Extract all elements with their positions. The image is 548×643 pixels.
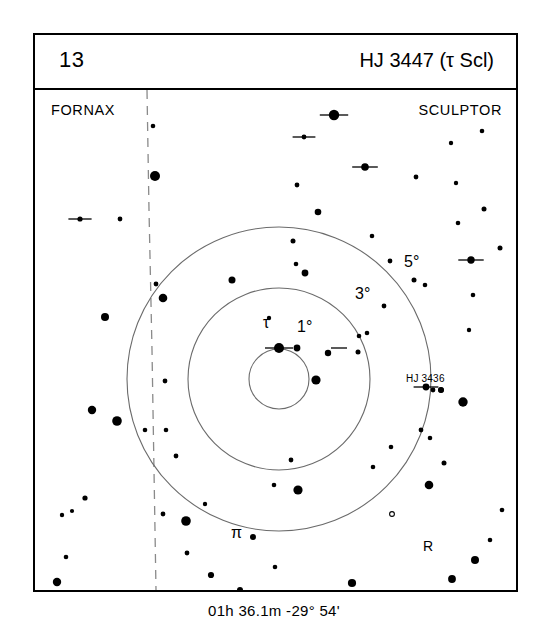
star-marker <box>419 428 424 433</box>
sky-plot <box>35 90 516 590</box>
ring-label-3deg: 3° <box>355 285 370 303</box>
star-marker <box>480 129 485 134</box>
star-marker <box>150 171 160 181</box>
star-marker <box>348 579 356 587</box>
star-marker <box>229 277 236 284</box>
star-marker <box>431 388 436 393</box>
star-marker <box>185 551 190 556</box>
ring-label-5deg: 5° <box>404 253 419 271</box>
star-marker <box>482 207 487 212</box>
star-marker <box>325 350 331 356</box>
star-label-pi: π <box>231 524 242 542</box>
chart-frame: 13 HJ 3447 (τ Scl) FORNAX SCULPTOR 1° 3°… <box>33 33 518 592</box>
star-marker <box>456 221 461 226</box>
double-star-companion-hj3436 <box>438 387 444 393</box>
star-marker <box>154 282 159 287</box>
star-marker <box>471 556 479 564</box>
boundary-line <box>147 90 156 590</box>
star-marker <box>118 217 123 222</box>
star-marker <box>295 183 300 188</box>
star-marker <box>174 454 179 459</box>
star-marker <box>208 572 214 578</box>
star-marker <box>365 331 370 336</box>
star-marker <box>60 513 64 517</box>
star-marker <box>250 534 256 540</box>
double-star-marker <box>352 163 378 171</box>
star-marker <box>311 375 320 384</box>
degree-ring-5 <box>127 227 431 531</box>
star-marker <box>471 293 476 298</box>
star-marker <box>423 283 428 288</box>
sky-field: FORNAX SCULPTOR 1° 3° 5° τ π R HJ 3436 <box>35 90 516 590</box>
star-marker <box>442 461 447 466</box>
star-label-tau: τ <box>263 314 269 332</box>
star-marker <box>412 278 417 283</box>
star-chart: 13 HJ 3447 (τ Scl) FORNAX SCULPTOR 1° 3°… <box>0 0 548 643</box>
star-marker <box>428 436 433 441</box>
star-marker <box>53 578 61 586</box>
double-star-marker <box>458 256 483 263</box>
star-marker <box>357 334 362 339</box>
star-marker <box>161 512 166 517</box>
double-star-marker <box>320 110 348 120</box>
star-marker <box>498 246 503 251</box>
double-star-marker <box>293 135 316 140</box>
star-marker <box>143 428 148 433</box>
star-layer <box>53 110 505 590</box>
star-marker <box>112 416 122 426</box>
variable-star-marker <box>390 512 395 517</box>
constellation-boundary <box>147 90 156 590</box>
star-marker <box>151 124 156 129</box>
star-marker <box>181 516 191 526</box>
star-marker <box>425 481 434 490</box>
star-marker <box>388 259 393 264</box>
constellation-label-fornax: FORNAX <box>51 102 115 118</box>
star-marker <box>414 175 419 180</box>
star-marker <box>294 262 299 267</box>
star-marker <box>289 458 294 463</box>
star-marker <box>293 485 302 494</box>
double-star-marker <box>68 216 91 221</box>
star-marker <box>163 379 168 384</box>
constellation-label-sculptor: SCULPTOR <box>419 102 503 118</box>
star-marker <box>82 495 87 500</box>
star-marker <box>488 538 493 543</box>
star-marker <box>371 465 376 470</box>
double-star-marker <box>265 343 300 353</box>
degree-rings <box>127 227 431 531</box>
star-marker <box>101 313 109 321</box>
star-marker <box>449 141 453 145</box>
star-label-variable-r: R <box>423 538 433 554</box>
degree-ring-3 <box>188 288 370 470</box>
star-marker <box>467 328 471 332</box>
star-marker <box>500 508 505 513</box>
chart-coordinates: 01h 36.1m -29° 54' <box>0 602 548 619</box>
degree-ring-1 <box>249 349 309 409</box>
star-marker <box>291 239 296 244</box>
chart-header: 13 HJ 3447 (τ Scl) <box>35 35 516 90</box>
star-marker <box>454 181 458 185</box>
star-marker <box>273 565 278 570</box>
ring-label-1deg: 1° <box>297 318 312 336</box>
star-marker <box>382 304 387 309</box>
star-marker <box>356 350 361 355</box>
star-marker <box>272 483 277 488</box>
star-marker <box>302 270 309 277</box>
star-marker <box>315 209 322 216</box>
star-marker <box>159 294 168 303</box>
star-label-hj3436: HJ 3436 <box>406 373 445 384</box>
star-marker <box>64 555 69 560</box>
star-marker <box>448 575 456 583</box>
star-marker <box>389 445 394 450</box>
chart-number: 13 <box>59 47 84 73</box>
star-marker <box>70 509 74 513</box>
star-marker <box>164 428 169 433</box>
star-marker <box>203 502 207 506</box>
star-marker <box>458 397 467 406</box>
chart-title: HJ 3447 (τ Scl) <box>359 49 494 72</box>
star-marker <box>88 406 96 414</box>
star-marker <box>370 234 375 239</box>
star-marker <box>237 587 243 590</box>
